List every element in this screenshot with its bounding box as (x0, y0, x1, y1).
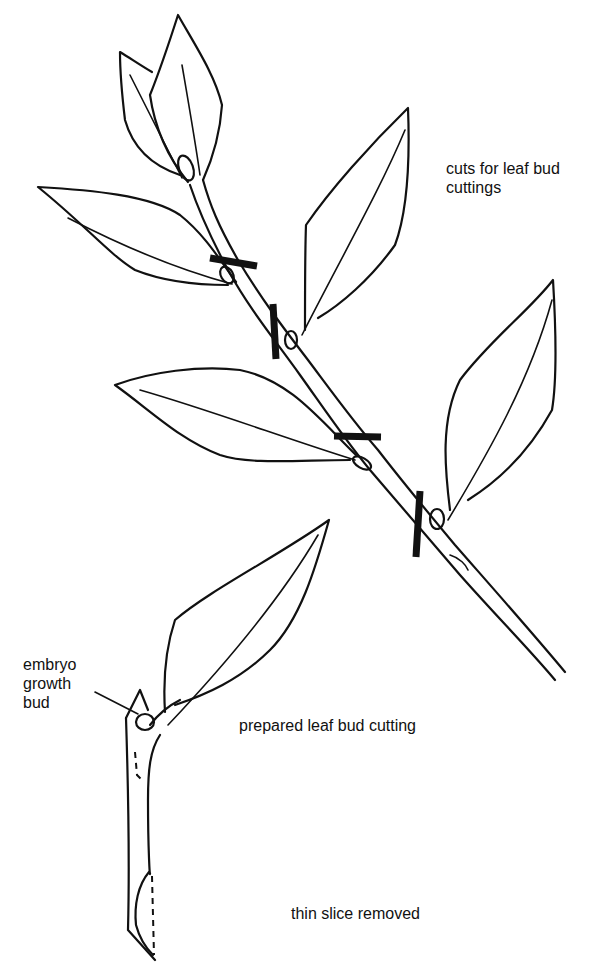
embryo-label-line-2: growth (23, 674, 76, 693)
cutting-stem-right (148, 735, 160, 874)
thin-slice-removed-label: thin slice removed (291, 904, 420, 923)
right-upper-leaf-midrib (302, 130, 405, 335)
leaf-bud-cutting-diagram (0, 0, 608, 974)
cut-mark-3 (334, 436, 381, 437)
main-stem-right-edge (203, 180, 565, 672)
upper-shoot (38, 15, 565, 680)
middle-left-leaf (115, 368, 356, 461)
bud-1 (217, 264, 236, 286)
cuts-label-line-2: cuttings (446, 178, 560, 197)
cuts-label-line-1: cuts for leaf bud (446, 159, 560, 178)
prepared-leaf-bud-cutting-label: prepared leaf bud cutting (239, 716, 416, 735)
cut-mark-4 (416, 491, 420, 557)
cutting-stem-left (126, 718, 155, 960)
embryo-label-line-1: embryo (23, 655, 76, 674)
embryo-growth-bud-label: embryo growth bud (23, 655, 76, 712)
cuts-for-leaf-bud-cuttings-label: cuts for leaf bud cuttings (446, 159, 560, 197)
middle-left-leaf-midrib (140, 390, 355, 460)
embryo-label-line-3: bud (23, 693, 76, 712)
cut-mark-1 (210, 258, 257, 266)
bud-3 (351, 454, 373, 473)
right-lower-leaf-midrib (448, 300, 552, 520)
left-upper-leaf (38, 187, 236, 285)
thin-slice-dashed-line (152, 876, 154, 955)
cutting-leaf-midrib (168, 535, 318, 725)
bud-2 (285, 331, 297, 349)
embryo-bud-pointer (95, 692, 138, 714)
cut-mark-2 (273, 304, 276, 359)
top-bud (175, 153, 197, 182)
node-dashed-line (135, 752, 144, 782)
cutting-leaf (164, 520, 329, 712)
right-upper-leaf (305, 108, 409, 330)
right-lower-leaf (446, 280, 556, 510)
prepared-cutting (95, 520, 329, 960)
top-leaf-1-midrib (182, 65, 200, 175)
main-stem-left-edge (190, 185, 555, 680)
